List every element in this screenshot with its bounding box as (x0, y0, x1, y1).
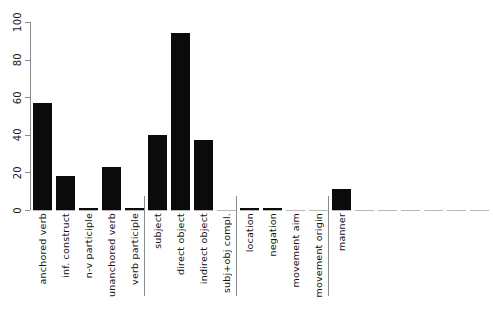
y-axis-tick (25, 172, 30, 173)
baseline-segment (240, 210, 258, 211)
category-label: unanchored verb (107, 213, 117, 297)
category-label: subject (153, 213, 163, 249)
baseline-segment (102, 210, 120, 211)
bar (79, 208, 97, 210)
baseline-segment (171, 210, 189, 211)
category-label: location (245, 213, 255, 252)
bar (148, 135, 166, 210)
baseline-segment (263, 210, 281, 211)
bar (102, 167, 120, 210)
category-label: · (452, 213, 462, 216)
bar (240, 208, 258, 210)
category-label: · (429, 213, 439, 216)
bar (171, 33, 189, 210)
category-label: · (475, 213, 485, 216)
category-label: anchored verb (38, 213, 48, 285)
baseline-segment (33, 210, 51, 211)
category-label: direct object (176, 213, 186, 275)
baseline-segment (148, 210, 166, 211)
bar (194, 140, 212, 210)
baseline-segment (56, 210, 74, 211)
y-axis-tick (25, 97, 30, 98)
bars-container (31, 16, 491, 210)
bar (263, 208, 281, 210)
y-axis-tick (25, 210, 30, 211)
category-label: · (406, 213, 416, 216)
bar (125, 208, 143, 210)
y-axis-tick (25, 22, 30, 23)
y-axis-tick-label: 40 (13, 128, 23, 141)
category-label: verb participle (130, 213, 140, 285)
baseline-segment (378, 210, 396, 211)
baseline-segment (286, 210, 304, 211)
y-axis-tick-label: 100 (13, 12, 23, 32)
baseline-segment (332, 210, 350, 211)
y-axis-tick (25, 135, 30, 136)
bar (33, 103, 51, 210)
y-axis-tick-label: 60 (13, 91, 23, 104)
baseline-segment (194, 210, 212, 211)
bar-chart: 020406080100 anchored verbinf. construct… (0, 0, 493, 317)
baseline-segment (424, 210, 442, 211)
bar (332, 189, 350, 210)
category-label: · (383, 213, 393, 216)
baseline-segment (125, 210, 143, 211)
category-label: indirect object (199, 213, 209, 284)
x-axis-category-labels: anchored verbinf. constructn-v participl… (0, 213, 493, 317)
category-label: · (360, 213, 370, 216)
category-label: n-v participle (84, 213, 94, 278)
baseline-segment (447, 210, 465, 211)
baseline-segment (79, 210, 97, 211)
category-label: subj+obj compl. (222, 213, 232, 293)
category-label: manner (337, 213, 347, 251)
category-label: negation (268, 213, 278, 257)
baseline-segment (217, 210, 235, 211)
category-label: movement origin (314, 213, 324, 297)
category-label: movement aim (291, 213, 301, 288)
y-axis-tick-label: 20 (13, 166, 23, 179)
bar (56, 176, 74, 210)
baseline-segment (355, 210, 373, 211)
y-axis-tick (25, 60, 30, 61)
category-label: inf. construct (61, 213, 71, 278)
y-axis-tick-label: 80 (13, 53, 23, 66)
baseline-segment (401, 210, 419, 211)
baseline-segment (470, 210, 488, 211)
baseline-segment (309, 210, 327, 211)
